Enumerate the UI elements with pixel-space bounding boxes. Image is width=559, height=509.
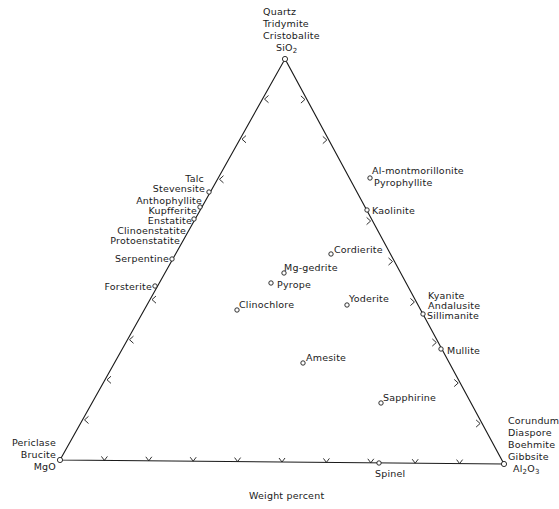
label-al-montmorillonite: Al-montmorillonite: [372, 165, 464, 177]
label-pyrophyllite: Pyrophyllite: [374, 177, 432, 189]
point-forsterite-marker: [153, 284, 157, 288]
label-amesite: Amesite: [306, 352, 346, 364]
point-cordierite-marker: [329, 252, 333, 256]
point-pyrope-marker: [269, 281, 273, 285]
tick-bottom-edge: [457, 460, 463, 464]
tick-left-edge: [242, 136, 246, 143]
tick-bottom-edge: [101, 456, 107, 460]
sio2-base: SiO: [276, 42, 293, 53]
point-kaolinite-marker: [365, 208, 369, 212]
label-stevensite: Stevensite: [153, 183, 205, 195]
tick-right-edge: [367, 217, 371, 224]
vertex-al2o3-marker: [501, 461, 506, 466]
label-yoderite: Yoderite: [349, 293, 389, 305]
label-cristobalite: Cristobalite: [263, 30, 320, 42]
label-clinochlore: Clinochlore: [239, 299, 294, 311]
label-al2o3: Al2O3: [513, 463, 540, 475]
tick-bottom-edge: [190, 457, 196, 461]
point-mullite-marker: [439, 347, 443, 351]
label-cordierite: Cordierite: [334, 244, 383, 256]
label-sio2: SiO2: [276, 42, 297, 54]
tick-bottom-edge: [323, 458, 329, 462]
label-quartz: Quartz: [263, 6, 296, 18]
point-enstatite-marker: [192, 217, 196, 221]
tick-bottom-edge: [412, 459, 418, 463]
tick-left-edge: [265, 96, 269, 103]
label-corundum: Corundum: [508, 415, 559, 427]
label-kaolinite: Kaolinite: [372, 205, 415, 217]
point-serpentine-marker: [170, 257, 174, 261]
label-tridymite: Tridymite: [263, 18, 309, 30]
label-pyrope: Pyrope: [277, 279, 311, 291]
tick-bottom-edge: [368, 459, 374, 463]
label-mg-gedrite: Mg-gedrite: [284, 262, 338, 274]
tick-bottom-edge: [146, 457, 152, 461]
label-sillimanite: Sillimanite: [427, 310, 479, 322]
label-mgo: MgO: [34, 461, 56, 473]
label-serpentine: Serpentine: [115, 253, 169, 265]
point-amesite-marker: [301, 361, 305, 365]
label-sapphirine: Sapphirine: [383, 392, 436, 404]
tick-right-edge: [454, 379, 458, 386]
al2o3-a: Al: [513, 463, 523, 474]
label-protoenstatite: Protoenstatite: [110, 235, 180, 247]
label-periclase: Periclase: [12, 437, 56, 449]
tick-bottom-edge: [235, 458, 241, 462]
label-boehmite: Boehmite: [508, 439, 555, 451]
tick-right-edge: [323, 136, 327, 143]
tick-right-edge: [476, 420, 480, 427]
tick-left-edge: [107, 376, 111, 383]
label-spinel: Spinel: [375, 468, 405, 480]
tick-left-edge: [152, 296, 156, 303]
label-brucite: Brucite: [21, 449, 56, 461]
tick-right-edge: [389, 258, 393, 265]
point-sillimanite-marker: [421, 312, 425, 316]
al2o3-sub2: 3: [535, 468, 540, 476]
tick-left-edge: [130, 336, 134, 343]
tick-right-edge: [410, 298, 414, 305]
footer-weight-percent: Weight percent: [249, 490, 324, 502]
tick-bottom-edge: [279, 458, 285, 462]
vertex-sio2-marker: [282, 56, 287, 61]
vertex-mgo-marker: [57, 457, 62, 462]
point-stevensite-marker: [207, 190, 211, 194]
tick-right-edge: [432, 339, 436, 346]
tick-left-edge: [85, 416, 89, 423]
label-forsterite: Forsterite: [105, 281, 152, 293]
sio2-sub: 2: [293, 47, 298, 55]
label-mullite: Mullite: [447, 345, 480, 357]
al2o3-b: O: [527, 463, 535, 474]
point-spinel-marker: [377, 461, 381, 465]
label-gibbsite: Gibbsite: [508, 451, 549, 463]
label-diaspore: Diaspore: [508, 427, 552, 439]
tick-left-edge: [220, 176, 224, 183]
tick-right-edge: [301, 96, 305, 103]
